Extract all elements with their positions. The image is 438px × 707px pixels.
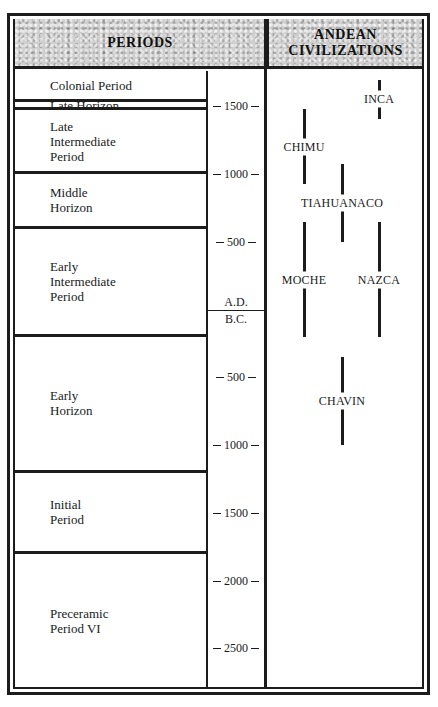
- civ-label-nazca: NAZCA: [357, 271, 401, 288]
- tick-dash: [213, 648, 221, 649]
- scale-tick: 500: [207, 235, 265, 249]
- tick-label: 1000: [224, 167, 248, 182]
- ad-label: A.D.: [207, 295, 265, 310]
- period-label: Early Horizon: [50, 388, 93, 418]
- tick-label: 1500: [224, 99, 248, 114]
- tick-dash: [213, 106, 221, 107]
- tick-dash: [248, 242, 256, 243]
- tick-label: 2000: [224, 574, 248, 589]
- tick-dash: [251, 174, 259, 175]
- tick-label: 500: [227, 370, 245, 385]
- period-row: Preceramic Period VI: [15, 554, 207, 688]
- scale-tick: 1500: [207, 506, 265, 520]
- scale-tick: 500: [207, 371, 265, 385]
- civilizations-title: ANDEAN CIVILIZATIONS: [288, 27, 402, 59]
- bc-label: B.C.: [207, 312, 265, 327]
- period-label: Colonial Period: [50, 78, 132, 93]
- scale-tick: 2000: [207, 574, 265, 588]
- tick-dash: [213, 445, 221, 446]
- tick-label: 500: [227, 235, 245, 250]
- tick-label: 2500: [224, 641, 248, 656]
- period-row: Initial Period: [15, 473, 207, 554]
- tick-dash: [251, 513, 259, 514]
- scale-tick: 1500: [207, 100, 265, 114]
- tick-dash: [251, 445, 259, 446]
- civ-label-tiahuanaco: TIAHUANACO: [300, 195, 384, 212]
- period-label: Preceramic Period VI: [50, 606, 108, 636]
- tick-dash: [213, 513, 221, 514]
- tick-label: 1500: [224, 506, 248, 521]
- civ-label-moche: MOCHE: [281, 271, 327, 288]
- scale-tick: 1000: [207, 168, 265, 182]
- scale-tick: 1000: [207, 439, 265, 453]
- tick-label: 1000: [224, 438, 248, 453]
- tick-dash: [216, 242, 224, 243]
- period-label: Early Intermediate Period: [50, 259, 116, 304]
- period-label: Initial Period: [50, 497, 84, 527]
- period-row: Late Intermediate Period: [15, 110, 207, 174]
- tick-dash: [213, 581, 221, 582]
- period-label: Middle Horizon: [50, 185, 93, 215]
- scale-tick: 2500: [207, 642, 265, 656]
- tick-dash: [251, 106, 259, 107]
- civ-label-chimu: CHIMU: [282, 138, 325, 155]
- periods-title: PERIODS: [107, 35, 173, 51]
- tick-dash: [213, 174, 221, 175]
- period-label: Late Intermediate Period: [50, 118, 116, 163]
- tick-dash: [251, 648, 259, 649]
- periods-header: PERIODS: [15, 19, 265, 69]
- period-row: Late Horizon: [15, 102, 207, 110]
- tick-dash: [216, 377, 224, 378]
- civ-label-chavin: CHAVIN: [318, 393, 366, 410]
- civilizations-header: ANDEAN CIVILIZATIONS: [266, 19, 422, 69]
- period-row: Middle Horizon: [15, 175, 207, 229]
- tick-dash: [248, 377, 256, 378]
- civ-label-inca: INCA: [363, 91, 395, 108]
- tick-dash: [251, 581, 259, 582]
- period-row: Early Horizon: [15, 337, 207, 473]
- ad-bc-divider: [207, 310, 265, 311]
- period-row: Early Intermediate Period: [15, 229, 207, 337]
